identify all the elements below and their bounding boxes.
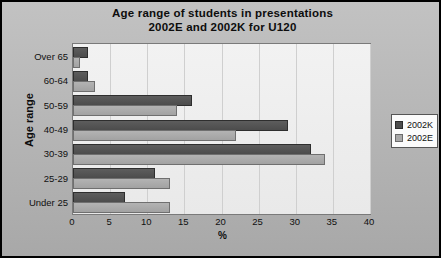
bar-2002E-50-59: [73, 105, 177, 116]
category-label-30-39: 30-39: [44, 148, 68, 159]
chart-title-line-2: 2002E and 2002K for U120: [2, 20, 441, 34]
category-label-Under-25: Under 25: [29, 196, 68, 207]
x-tick-label-10: 10: [141, 216, 152, 227]
bar-2002E-30-39: [73, 154, 325, 165]
gridline: [296, 44, 297, 214]
x-tick-label-5: 5: [106, 216, 111, 227]
legend-swatch-icon-2002e: [395, 134, 403, 142]
x-tick-label-30: 30: [289, 216, 300, 227]
gridline: [333, 44, 334, 214]
legend-label-1: 2002E: [407, 133, 433, 143]
bar-2002E-60-64: [73, 81, 95, 92]
legend-label-0: 2002K: [407, 120, 433, 130]
category-label-25-29: 25-29: [44, 172, 68, 183]
bar-2002E-Under-25: [73, 202, 170, 213]
x-axis-label: %: [2, 230, 441, 241]
category-label-Over-65: Over 65: [34, 51, 68, 62]
legend-swatch-icon-2002k: [395, 121, 403, 129]
x-tick-label-15: 15: [178, 216, 189, 227]
y-axis-label: Age range: [23, 75, 35, 165]
category-label-60-64: 60-64: [44, 75, 68, 86]
x-tick-label-40: 40: [364, 216, 375, 227]
x-tick-label-20: 20: [215, 216, 226, 227]
chart-title: Age range of students in presentations 2…: [2, 6, 441, 34]
category-label-50-59: 50-59: [44, 99, 68, 110]
gridline: [370, 44, 371, 214]
legend-item-0: 2002K: [395, 118, 433, 131]
bar-2002E-40-49: [73, 130, 236, 141]
category-label-40-49: 40-49: [44, 124, 68, 135]
plot-area: Over 6560-6450-5940-4930-3925-29Under 25: [72, 43, 371, 215]
chart-frame: Age range of students in presentations 2…: [0, 0, 441, 258]
legend-item-1: 2002E: [395, 131, 433, 144]
chart-title-line-1: Age range of students in presentations: [2, 6, 441, 20]
x-tick-label-35: 35: [327, 216, 338, 227]
x-tick-label-0: 0: [69, 216, 74, 227]
bar-2002E-Over-65: [73, 57, 80, 68]
bar-2002E-25-29: [73, 178, 170, 189]
chart-legend: 2002K 2002E: [391, 114, 438, 148]
x-tick-label-25: 25: [252, 216, 263, 227]
